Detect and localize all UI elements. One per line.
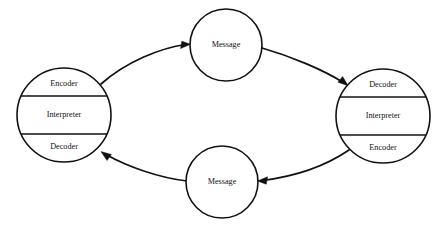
right-party-node[interactable]: Decoder Interpreter Encoder xyxy=(336,69,430,163)
top-message-node[interactable]: Message xyxy=(190,9,262,81)
diagram-container: Encoder Interpreter Decoder Decoder Inte… xyxy=(0,0,446,231)
bottom-message-node[interactable]: Message xyxy=(186,146,258,218)
right-party-segment-label-decoder: Decoder xyxy=(369,80,397,89)
left-party-node[interactable]: Encoder Interpreter Decoder xyxy=(17,68,111,162)
top-message-label: Message xyxy=(212,40,241,49)
bottom-message-label: Message xyxy=(208,177,237,186)
right-party-segment-label-encoder: Encoder xyxy=(369,143,397,152)
left-party-segment-label-interpreter: Interpreter xyxy=(47,110,82,119)
diagram-canvas: Encoder Interpreter Decoder Decoder Inte… xyxy=(0,0,446,231)
left-party-segment-label-decoder: Decoder xyxy=(50,142,78,151)
right-party-segment-label-interpreter: Interpreter xyxy=(366,111,401,120)
left-party-segment-label-encoder: Encoder xyxy=(50,79,78,88)
